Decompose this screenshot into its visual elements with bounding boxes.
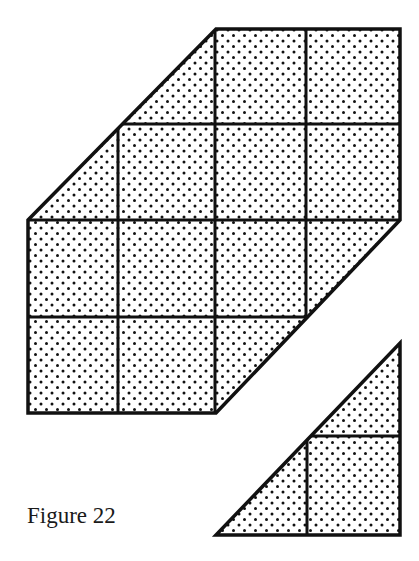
- figure-diagram: [0, 0, 419, 561]
- main-shape: [28, 29, 400, 413]
- figure-caption: Figure 22: [27, 503, 116, 529]
